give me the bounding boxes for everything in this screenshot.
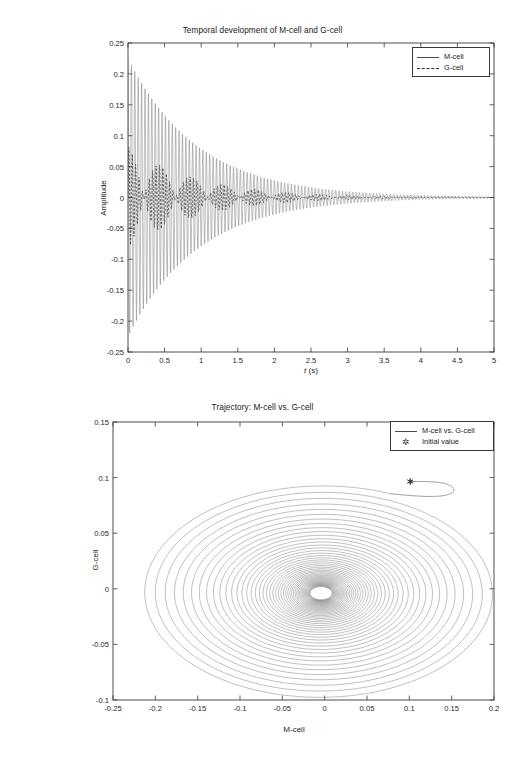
xtick-label: 0.5 (159, 356, 170, 365)
xtick-label: -0.05 (274, 704, 291, 713)
xtick-label: 0 (126, 356, 130, 365)
temporal-development-plot: Temporal development of M-cell and G-cel… (0, 0, 525, 390)
ytick-label: 0.25 (92, 39, 124, 48)
xtick-label: 3.5 (379, 356, 390, 365)
xtick-label: 1.5 (233, 356, 244, 365)
ytick-label: -0.1 (92, 255, 124, 264)
legend-label: G-cell (444, 63, 463, 72)
xtick-label: 4 (419, 356, 423, 365)
xtick-label: 2.5 (306, 356, 317, 365)
xtick-label: -0.15 (189, 704, 206, 713)
xtick-label: 0.2 (489, 704, 500, 713)
ytick-label: -0.1 (77, 696, 109, 705)
xtick-label: -0.1 (233, 704, 246, 713)
xtick-label: 0 (323, 704, 327, 713)
trajectory-xaxis-title: M-cell (283, 725, 304, 734)
ytick-label: 0 (92, 193, 124, 202)
trajectory-lead-in (390, 481, 454, 496)
legend-item-g-cell[interactable]: G-cell (417, 62, 484, 73)
legend-label: M-cell vs. G-cell (422, 426, 475, 435)
series-m-cell (128, 58, 494, 333)
ytick-label: 0.15 (77, 418, 109, 427)
ytick-label: 0.2 (92, 69, 124, 78)
xtick-label: 4.5 (452, 356, 463, 365)
xtick-label: 5 (492, 356, 496, 365)
legend-label: M-cell (444, 52, 464, 61)
ytick-label: 0.15 (92, 100, 124, 109)
legend-item-initial-value[interactable]: ✲ Initial value (395, 436, 488, 447)
xtick-label: 0.1 (404, 704, 415, 713)
xtick-label: 2 (272, 356, 276, 365)
ytick-label: 0 (77, 584, 109, 593)
figure-canvas: Temporal development of M-cell and G-cel… (0, 0, 525, 758)
series-m-cell-vs-g-cell (145, 486, 493, 697)
trajectory-yaxis-title: G-cell (91, 550, 100, 571)
ytick-label: 0.1 (92, 131, 124, 140)
ytick-label: -0.15 (92, 286, 124, 295)
temporal-yaxis-title: Amplitude (99, 180, 108, 216)
temporal-legend[interactable]: M-cell G-cell (412, 47, 490, 77)
xtick-label: 0.05 (360, 704, 375, 713)
ytick-label: -0.05 (77, 640, 109, 649)
trajectory-legend[interactable]: M-cell vs. G-cell ✲ Initial value (390, 421, 494, 451)
xtick-label: -0.2 (149, 704, 162, 713)
ytick-label: 0.05 (92, 162, 124, 171)
legend-item-trajectory[interactable]: M-cell vs. G-cell (395, 425, 488, 436)
dashed-line-sample-icon (417, 63, 439, 73)
legend-label: Initial value (422, 437, 459, 446)
xtick-label: 1 (199, 356, 203, 365)
ytick-label: 0.05 (77, 529, 109, 538)
xaxis-unit: (s) (306, 366, 318, 375)
ytick-label: -0.05 (92, 224, 124, 233)
xtick-label: 0.15 (444, 704, 459, 713)
asterisk-marker-icon: ✲ (395, 437, 417, 447)
xtick-label: 3 (345, 356, 349, 365)
line-sample-icon (395, 426, 417, 436)
temporal-xaxis-title: t (s) (304, 366, 318, 375)
legend-item-m-cell[interactable]: M-cell (417, 51, 484, 62)
xtick-label: -0.25 (104, 704, 121, 713)
ytick-label: -0.25 (92, 348, 124, 357)
ytick-label: 0.1 (77, 473, 109, 482)
ytick-label: -0.2 (92, 317, 124, 326)
trajectory-plot: Trajectory: M-cell vs. G-cell -0.25-0.2-… (0, 390, 525, 758)
line-sample-icon (417, 52, 439, 62)
asterisk-glyph: ✲ (402, 437, 410, 446)
